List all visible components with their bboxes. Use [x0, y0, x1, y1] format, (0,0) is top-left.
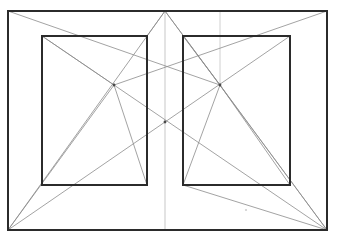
center-crossing-node	[164, 121, 167, 124]
drawing-canvas	[0, 0, 339, 247]
paper-specks-group	[245, 209, 247, 211]
right-vanishing-node	[219, 84, 222, 87]
paper-speck	[245, 209, 247, 211]
left-vanishing-node	[113, 84, 116, 87]
perspective-construction-svg	[0, 0, 339, 247]
